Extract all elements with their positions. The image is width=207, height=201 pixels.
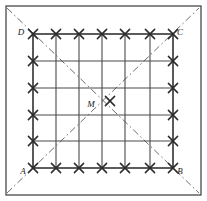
- vertex-label-M: M: [86, 99, 95, 109]
- figure-canvas: ABCDM: [0, 0, 207, 201]
- vertex-label-A: A: [19, 166, 26, 176]
- vertex-label-D: D: [17, 27, 25, 37]
- geometry-figure: ABCDM: [0, 0, 207, 201]
- vertex-label-B: B: [177, 166, 183, 176]
- vertex-label-C: C: [177, 27, 184, 37]
